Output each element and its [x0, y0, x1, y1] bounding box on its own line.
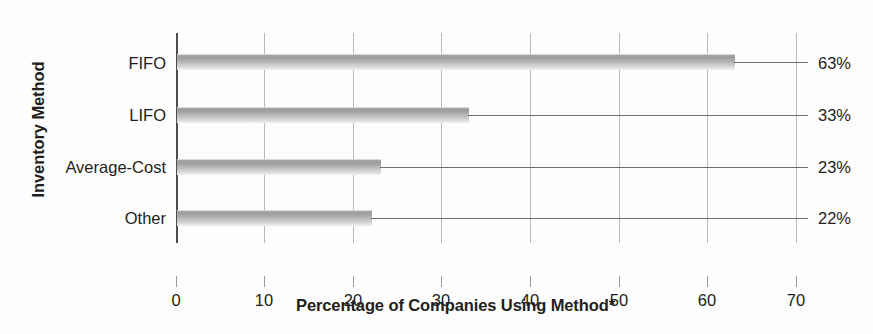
x-tick-30	[441, 276, 442, 287]
bar-chart-figure: Inventory Method FIFO LIFO Average-Cost …	[0, 0, 873, 334]
data-label-lifo: 33%	[818, 106, 851, 125]
x-tick-60	[707, 276, 708, 287]
leader-line-fifo	[734, 62, 808, 63]
x-axis-title: Percentage of Companies Using Method*	[0, 296, 873, 315]
y-tick-label-other: Other	[0, 209, 175, 228]
x-tick-20	[353, 276, 354, 287]
leader-line-lifo	[468, 115, 808, 116]
y-tick-label-lifo: LIFO	[0, 106, 175, 125]
plot-area: 0 10 20 30 40 50 60 70	[176, 33, 796, 243]
x-tick-0	[176, 276, 177, 287]
y-tick-label-fifo: FIFO	[0, 54, 175, 73]
x-tick-70	[796, 276, 797, 287]
leader-line-other	[371, 218, 808, 219]
bar-lifo	[177, 107, 469, 123]
x-tick-50	[619, 276, 620, 287]
leader-line-average-cost	[380, 167, 808, 168]
bar-average-cost	[177, 159, 381, 175]
x-tick-40	[530, 276, 531, 287]
y-tick-label-average-cost: Average-Cost	[0, 158, 175, 177]
gridline-70	[796, 33, 797, 243]
bar-other	[177, 210, 372, 226]
data-label-other: 22%	[818, 209, 851, 228]
x-tick-10	[264, 276, 265, 287]
data-label-average-cost: 23%	[818, 158, 851, 177]
data-label-fifo: 63%	[818, 54, 851, 73]
bar-fifo	[177, 54, 735, 70]
